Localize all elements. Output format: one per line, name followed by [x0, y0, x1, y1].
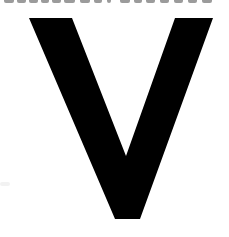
- faint-smudge: [0, 182, 10, 186]
- letter-v-glyph: [0, 0, 229, 237]
- letter-v-shape: [29, 18, 213, 219]
